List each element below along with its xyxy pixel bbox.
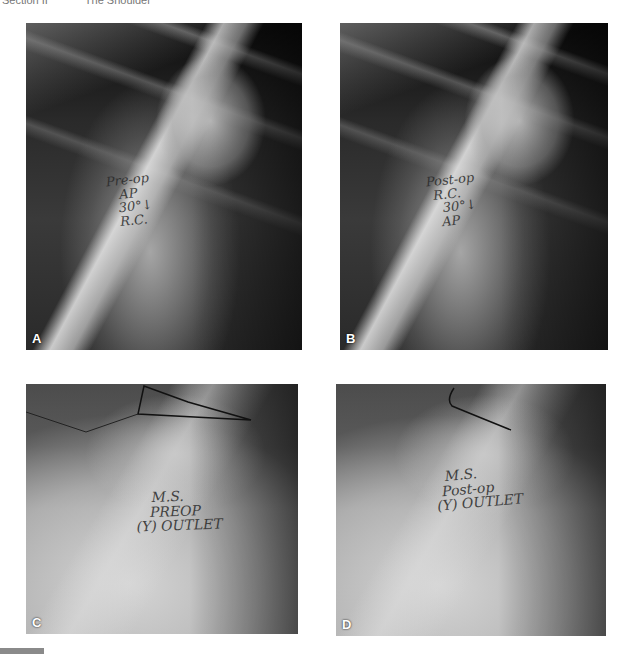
panel-label-c: C <box>32 615 41 630</box>
running-head: Section II The Shoulder <box>2 0 151 6</box>
radiograph-panel-a: Pre-op AP 30°↓ R.C. A <box>26 23 302 350</box>
handwritten-annotation-a: Pre-op AP 30°↓ R.C. <box>105 171 154 230</box>
handwritten-annotation-b: Post-op R.C. 30°↓ AP <box>425 171 479 230</box>
handwritten-annotation-c: M.S. PREOP (Y) OUTLET <box>135 488 223 535</box>
panel-label-b: B <box>346 331 355 346</box>
radiograph-panel-c: M.S. PREOP (Y) OUTLET C <box>26 384 298 634</box>
panel-shading <box>501 23 608 350</box>
radiograph-panel-b: Post-op R.C. 30°↓ AP B <box>340 23 608 350</box>
radiograph-panel-d: M.S. Post-op (Y) OUTLET D <box>336 384 606 636</box>
section-number: Section II <box>2 0 82 6</box>
section-title: The Shoulder <box>85 0 151 6</box>
panel-label-d: D <box>342 617 351 632</box>
panel-shading <box>192 23 302 350</box>
figure-caption-marker <box>0 648 44 654</box>
handwritten-annotation-d: M.S. Post-op (Y) OUTLET <box>434 462 524 513</box>
panel-label-a: A <box>32 331 41 346</box>
